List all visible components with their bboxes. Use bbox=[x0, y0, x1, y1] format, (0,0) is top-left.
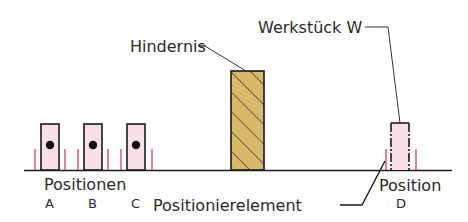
workpiece-position-a bbox=[35, 124, 65, 170]
workpiece-label: Werkstück W bbox=[258, 18, 362, 37]
workpiece-position-b bbox=[78, 124, 108, 170]
workpiece-position-c bbox=[121, 124, 152, 170]
diagram-canvas: Hindernis Werkstück W Positionen A B C P… bbox=[0, 0, 468, 222]
workpiece-leader-line bbox=[365, 27, 400, 123]
center-dot-icon bbox=[89, 141, 97, 149]
position-c-label: C bbox=[131, 196, 140, 211]
positions-group-label: Positionen bbox=[44, 175, 126, 194]
positioning-element-label: Positionierelement bbox=[153, 196, 302, 215]
obstacle-label: Hindernis bbox=[130, 37, 206, 56]
position-b-label: B bbox=[88, 196, 97, 211]
position-d-label: D bbox=[396, 196, 406, 211]
workpiece-position-d bbox=[386, 123, 416, 170]
position-a-label: A bbox=[45, 196, 54, 211]
positioning-diagram: Hindernis Werkstück W Positionen A B C P… bbox=[0, 0, 468, 222]
center-dot-icon bbox=[46, 141, 54, 149]
obstacle bbox=[231, 71, 264, 170]
obstacle-leader-line bbox=[200, 46, 246, 71]
center-dot-icon bbox=[132, 141, 140, 149]
position-d-title-label: Position bbox=[379, 176, 441, 195]
